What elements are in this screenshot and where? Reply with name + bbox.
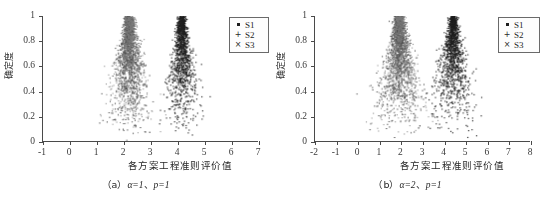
y-tick-label: 0.6: [283, 61, 307, 71]
caption-b-alpha: α=2: [399, 180, 415, 190]
x-tick-label: -1: [324, 148, 348, 158]
legend-a: S1 + S2 × S3: [229, 17, 269, 53]
y-tick: [39, 92, 43, 93]
caption-b-prefix: （b）: [373, 179, 399, 190]
legend-item-s1: S1: [233, 20, 264, 30]
legend-marker-cross-icon: ×: [502, 40, 512, 50]
legend-label-s3: S3: [243, 40, 255, 50]
panel-a: 确定度 各方案工程准则评价值 S1 + S2 × S3 （a）α=1、p=1 0…: [0, 0, 271, 199]
x-tick-label: 2: [111, 148, 135, 158]
legend-label-s1: S1: [512, 20, 524, 30]
y-tick: [39, 16, 43, 17]
x-tick: [205, 141, 206, 145]
x-axis-label-a: 各方案工程准则评价值: [128, 158, 232, 172]
legend-marker-dot-icon: [502, 20, 512, 30]
x-tick-label: 7: [246, 148, 270, 158]
legend-label-s2: S2: [512, 30, 524, 40]
caption-b-sep: 、: [416, 179, 426, 190]
y-tick-label: 0.4: [11, 87, 35, 97]
scatter-canvas-a: [43, 16, 258, 141]
x-tick: [401, 141, 402, 145]
caption-b: （b）α=2、p=1: [272, 177, 543, 191]
x-tick: [124, 141, 125, 145]
y-tick: [39, 117, 43, 118]
y-tick: [311, 41, 315, 42]
x-axis-label-b: 各方案工程准则评价值: [400, 158, 504, 172]
x-tick-label: 4: [165, 148, 189, 158]
x-tick: [178, 141, 179, 145]
y-tick: [311, 117, 315, 118]
y-tick-label: 0.8: [11, 36, 35, 46]
legend-marker-dot-icon: [233, 20, 243, 30]
x-tick: [466, 141, 467, 145]
y-tick-label: 0: [11, 137, 35, 147]
legend-item-s3: × S3: [233, 40, 264, 50]
x-tick: [315, 141, 316, 145]
x-tick-label: 1: [367, 148, 391, 158]
y-tick: [311, 92, 315, 93]
x-tick: [509, 141, 510, 145]
caption-a-alpha: α=1: [127, 180, 143, 190]
x-tick-label: 2: [388, 148, 412, 158]
caption-a-p: p=1: [154, 180, 170, 190]
y-tick: [311, 66, 315, 67]
y-tick-label: 0: [283, 137, 307, 147]
x-tick-label: 5: [192, 148, 216, 158]
y-tick-label: 0.2: [283, 112, 307, 122]
x-tick-label: 0: [57, 148, 81, 158]
x-tick-label: 3: [138, 148, 162, 158]
legend-item-s2: + S2: [502, 30, 535, 40]
legend-label-s2: S2: [243, 30, 255, 40]
x-tick: [97, 141, 98, 145]
x-tick-label: -2: [302, 148, 326, 158]
caption-a-sep: 、: [144, 179, 154, 190]
legend-label-s3: S3: [512, 40, 524, 50]
x-tick: [43, 141, 44, 145]
legend-marker-cross-icon: ×: [233, 40, 243, 50]
legend-item-s2: + S2: [233, 30, 264, 40]
x-tick: [70, 141, 71, 145]
x-tick-label: 6: [219, 148, 243, 158]
x-tick: [531, 141, 532, 145]
legend-b: S1 + S2 × S3: [498, 17, 540, 53]
y-tick-label: 1: [283, 11, 307, 21]
plot-area-a: [42, 16, 258, 142]
y-tick: [39, 41, 43, 42]
legend-marker-plus-icon: +: [233, 30, 243, 40]
legend-label-s1: S1: [243, 20, 255, 30]
x-tick-label: 1: [84, 148, 108, 158]
caption-a-prefix: （a）: [102, 179, 128, 190]
x-tick-label: 4: [432, 148, 456, 158]
legend-item-s3: × S3: [502, 40, 535, 50]
x-tick: [423, 141, 424, 145]
x-tick: [358, 141, 359, 145]
y-tick-label: 1: [11, 11, 35, 21]
caption-a: （a）α=1、p=1: [0, 177, 271, 191]
x-tick: [337, 141, 338, 145]
x-tick: [380, 141, 381, 145]
legend-item-s1: S1: [502, 20, 535, 30]
panel-b: 确定度 各方案工程准则评价值 S1 + S2 × S3 （b）α=2、p=1 0…: [272, 0, 543, 199]
caption-b-p: p=1: [426, 180, 442, 190]
y-tick-label: 0.2: [11, 112, 35, 122]
y-tick-label: 0.8: [283, 36, 307, 46]
x-tick: [259, 141, 260, 145]
x-tick-label: 6: [475, 148, 499, 158]
y-tick: [311, 16, 315, 17]
x-tick-label: 3: [410, 148, 434, 158]
x-tick: [488, 141, 489, 145]
x-tick-label: 8: [518, 148, 542, 158]
y-tick-label: 0.4: [283, 87, 307, 97]
y-tick: [39, 66, 43, 67]
x-tick-label: 5: [453, 148, 477, 158]
x-tick: [445, 141, 446, 145]
x-tick-label: 7: [496, 148, 520, 158]
legend-marker-plus-icon: +: [502, 30, 512, 40]
figure-two-panel-scatter: 确定度 各方案工程准则评价值 S1 + S2 × S3 （a）α=1、p=1 0…: [0, 0, 543, 199]
y-tick-label: 0.6: [11, 61, 35, 71]
x-tick: [232, 141, 233, 145]
x-tick: [151, 141, 152, 145]
x-tick-label: 0: [345, 148, 369, 158]
x-tick-label: -1: [30, 148, 54, 158]
